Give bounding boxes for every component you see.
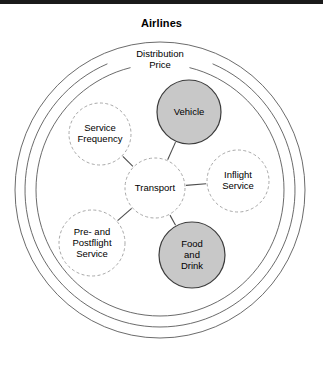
diagram-canvas: TransportVehicleServiceFrequencyInflight… <box>0 0 323 372</box>
connector-transport-to-pre-and-postflight-service <box>118 208 132 220</box>
node-label-inflight-service: Service <box>222 180 254 191</box>
connector-transport-to-vehicle <box>168 142 176 160</box>
node-label-food-and-drink: Food <box>181 238 203 249</box>
ring-label-distribution-ring: Distribution <box>136 48 184 59</box>
node-label-transport: Transport <box>135 182 176 193</box>
node-label-vehicle: Vehicle <box>174 106 205 117</box>
node-pre-and-postflight-service[interactable]: Pre- andPostflightService <box>59 210 125 276</box>
node-label-food-and-drink: Drink <box>181 260 203 271</box>
ring-labels-group: DistributionPrice <box>136 48 184 70</box>
connector-transport-to-inflight-service <box>186 184 206 186</box>
node-vehicle[interactable]: Vehicle <box>157 80 221 144</box>
node-service-frequency[interactable]: ServiceFrequency <box>69 103 131 165</box>
node-label-inflight-service: Inflight <box>224 169 252 180</box>
node-label-service-frequency: Frequency <box>78 133 123 144</box>
node-label-service-frequency: Service <box>84 122 116 133</box>
connector-transport-to-food-and-drink <box>170 215 176 225</box>
node-label-pre-and-postflight-service: Service <box>76 248 108 259</box>
connector-transport-to-service-frequency <box>123 156 133 166</box>
node-transport[interactable]: Transport <box>125 158 185 218</box>
nodes-group: TransportVehicleServiceFrequencyInflight… <box>59 80 269 288</box>
node-food-and-drink[interactable]: FoodandDrink <box>159 222 225 288</box>
node-inflight-service[interactable]: InflightService <box>207 150 269 212</box>
node-label-pre-and-postflight-service: Postflight <box>72 237 111 248</box>
airlines-service-diagram: Airlines TransportVehicleServiceFrequenc… <box>0 0 323 372</box>
ring-label-price-ring: Price <box>149 59 171 70</box>
node-label-food-and-drink: and <box>184 249 200 260</box>
node-label-pre-and-postflight-service: Pre- and <box>74 226 110 237</box>
